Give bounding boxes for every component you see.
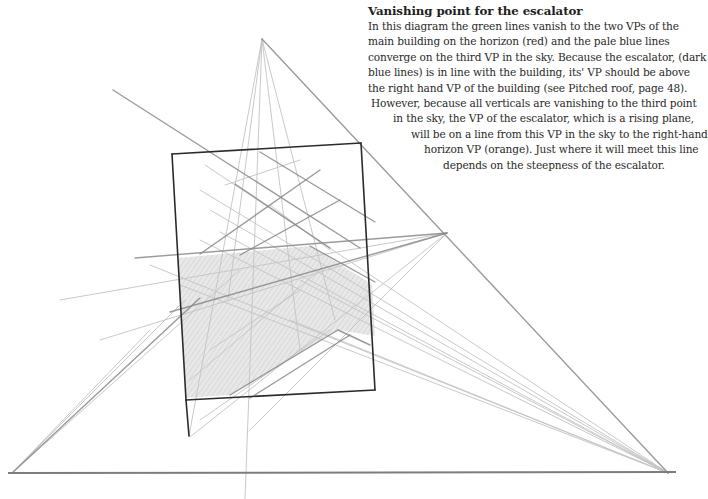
caption-line: the right hand VP of the building (see P… <box>368 81 708 96</box>
pencil-line <box>12 300 185 473</box>
pencil-line <box>12 330 150 473</box>
caption-title: Vanishing point for the escalator <box>368 4 708 19</box>
pencil-line <box>113 90 360 248</box>
caption-line: However, because all verticals are vanis… <box>368 96 708 111</box>
caption-line: depends on the steepness of the escalato… <box>368 158 708 173</box>
pencil-line <box>186 400 189 436</box>
caption-line: converge on the third VP in the sky. Bec… <box>368 50 708 65</box>
caption-line: horizon VP (orange). Just where it will … <box>368 142 708 157</box>
pencil-line <box>300 280 668 473</box>
pencil-line <box>260 152 375 222</box>
horizon-line <box>8 472 676 473</box>
pencil-line <box>235 184 330 248</box>
pencil-line <box>172 143 361 154</box>
caption-line: will be on a line from this VP in the sk… <box>368 127 708 142</box>
caption-line: main building on the horizon (red) and t… <box>368 34 708 49</box>
pencil-line <box>12 298 200 473</box>
caption-line: blue lines) is in line with the building… <box>368 65 708 80</box>
pencil-line <box>290 320 668 473</box>
caption-line: In this diagram the green lines vanish t… <box>368 19 708 34</box>
caption-body: In this diagram the green lines vanish t… <box>368 19 708 173</box>
caption-line: in the sky, the VP of the escalator, whi… <box>368 111 708 126</box>
pencil-line <box>225 160 300 185</box>
caption-block: Vanishing point for the escalator In thi… <box>368 4 708 173</box>
pencil-line <box>200 170 320 254</box>
